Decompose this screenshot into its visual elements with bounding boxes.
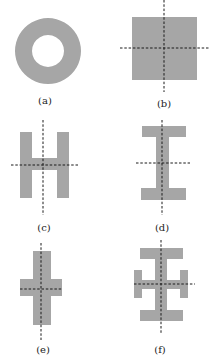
panel-label-e: (e) bbox=[36, 344, 50, 355]
panel-b: (b) bbox=[120, 0, 210, 109]
i-top-flange bbox=[142, 126, 186, 137]
panel-f: (f) bbox=[134, 240, 195, 355]
cross-sections-figure: (a) (b) (c) (d) (e) bbox=[0, 0, 214, 360]
ring-shape bbox=[15, 18, 81, 84]
i-bottom-flange bbox=[141, 188, 186, 200]
panel-label-b: (b) bbox=[157, 98, 171, 109]
panel-e: (e) bbox=[20, 243, 62, 355]
panel-a: (a) bbox=[15, 18, 81, 106]
panel-label-c: (c) bbox=[37, 222, 51, 233]
panel-label-d: (d) bbox=[155, 222, 169, 233]
panel-d: (d) bbox=[136, 120, 190, 233]
panel-c: (c) bbox=[11, 120, 78, 233]
panel-label-a: (a) bbox=[38, 95, 52, 106]
h-crossbar bbox=[32, 158, 57, 170]
panel-label-f: (f) bbox=[154, 344, 166, 355]
